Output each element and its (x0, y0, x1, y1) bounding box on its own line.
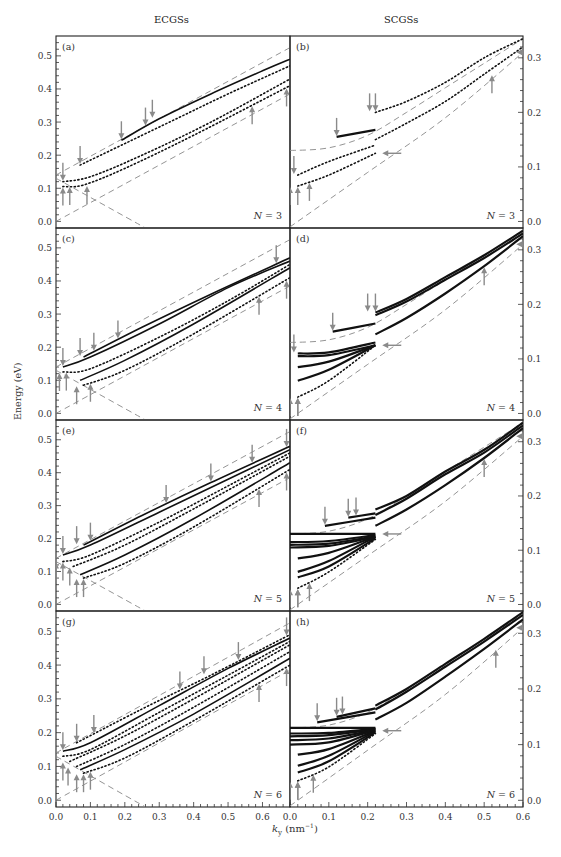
y-tick-label: 0.1 (527, 354, 541, 364)
y-tick-label: 0.2 (38, 728, 52, 738)
arrow-down-icon (334, 710, 340, 716)
y-tick-label: 0.4 (38, 276, 53, 286)
arrow-down-icon (91, 727, 97, 733)
y-tick-label: 0.2 (527, 684, 541, 694)
arrow-up-icon (74, 579, 80, 585)
panel-c: 0.00.10.20.30.40.5(c)N = 4 (38, 228, 290, 420)
arrow-down-icon (339, 709, 345, 715)
arrow-down-icon (284, 629, 290, 635)
arrow-up-icon (81, 774, 87, 780)
x-tick-label: 0.5 (477, 812, 492, 822)
panel-f: 0.00.10.20.3(f)N = 5 (287, 420, 542, 611)
arrow-down-icon (353, 509, 359, 515)
band-curve (375, 47, 523, 140)
arrow-down-icon (365, 306, 371, 312)
y-tick-label: 0.0 (527, 409, 542, 419)
band-curve (63, 86, 290, 187)
band-curve (63, 450, 290, 555)
panel-label: (a) (62, 41, 75, 52)
y-tick-label: 0.0 (38, 217, 53, 227)
arrow-up-icon (284, 472, 290, 478)
dashed-boundary (290, 231, 523, 343)
band-curve (80, 66, 290, 165)
band-curve (63, 638, 290, 751)
y-tick-label: 0.1 (38, 567, 52, 577)
arrow-up-icon (74, 774, 80, 780)
y-tick-label: 0.2 (527, 300, 541, 310)
n-label: N = 5 (486, 593, 515, 604)
band-curve (375, 231, 523, 313)
y-tick-label: 0.3 (527, 245, 542, 255)
band-curve (375, 428, 523, 526)
band-curve (375, 612, 523, 706)
band-curve (80, 658, 290, 770)
y-tick-label: 0.5 (38, 627, 53, 637)
dashed-boundary (290, 244, 523, 419)
y-tick-label: 0.2 (38, 343, 52, 353)
band-curve (298, 145, 376, 175)
arrow-up-icon (53, 563, 59, 569)
arrow-down-icon (284, 441, 290, 447)
band-curve (121, 59, 290, 140)
y-tick-label: 0.1 (527, 546, 541, 556)
arrow-up-icon (60, 762, 66, 768)
arrow-up-icon (493, 650, 499, 656)
arrow-down-icon (291, 168, 297, 174)
arrow-up-icon (287, 782, 293, 788)
y-tick-label: 0.0 (38, 600, 53, 610)
y-tick-label: 0.2 (38, 151, 52, 161)
x-tick-label: 0.4 (438, 812, 453, 822)
band-curve (63, 264, 290, 372)
band-curve (84, 278, 291, 386)
arrow-down-icon (149, 112, 155, 118)
dashed-boundary (56, 240, 290, 367)
arrow-down-icon (314, 715, 320, 721)
x-tick-label: 0.3 (399, 812, 414, 822)
arrow-down-icon (74, 538, 80, 544)
arrow-down-icon (273, 257, 279, 263)
arrow-down-icon (60, 175, 66, 181)
y-tick-label: 0.2 (527, 108, 541, 118)
x-axis-close: ) (314, 823, 318, 834)
y-tick-label: 0.2 (38, 534, 52, 544)
arrow-left-icon (516, 241, 522, 247)
dashed-boundary (56, 370, 146, 420)
y-tick-label: 0.0 (38, 409, 53, 419)
band-curve (337, 130, 376, 137)
n-label: N = 4 (253, 402, 282, 413)
y-tick-label: 0.5 (38, 435, 53, 445)
arrow-down-icon (345, 511, 351, 517)
band-curve (375, 619, 523, 719)
x-tick-label: 0.6 (516, 812, 531, 822)
dashed-boundary (290, 52, 523, 227)
y-tick-label: 0.3 (527, 437, 542, 447)
dashed-boundary (56, 623, 290, 753)
n-label: N = 4 (486, 402, 515, 413)
arrow-left-icon (382, 150, 388, 156)
arrow-down-icon (208, 476, 214, 482)
band-curve (333, 324, 376, 332)
dashed-boundary (56, 432, 290, 559)
arrow-left-icon (516, 433, 522, 439)
dashed-boundary (290, 628, 523, 806)
n-label: N = 3 (486, 210, 515, 221)
band-curve (325, 518, 376, 526)
band-curve (375, 39, 523, 113)
arrow-up-icon (295, 782, 301, 788)
arrow-up-icon (306, 183, 312, 189)
arrow-up-icon (84, 186, 90, 192)
x-tick-label: 0.5 (221, 812, 236, 822)
y-tick-label: 0.0 (527, 600, 542, 610)
panel-g: 0.00.10.20.30.40.50.00.10.20.30.40.50.6(… (38, 611, 290, 822)
n-label: N = 3 (253, 210, 282, 221)
panel-label: (b) (296, 41, 310, 52)
arrow-down-icon (235, 654, 241, 660)
band-curve (375, 236, 523, 334)
y-tick-label: 0.3 (38, 694, 53, 704)
x-tick-label: 0.6 (255, 812, 270, 822)
y-tick-label: 0.3 (527, 629, 542, 639)
arrow-up-icon (284, 281, 290, 287)
y-tick-label: 0.2 (527, 491, 541, 501)
n-label: N = 6 (253, 789, 282, 800)
n-label: N = 6 (486, 789, 515, 800)
